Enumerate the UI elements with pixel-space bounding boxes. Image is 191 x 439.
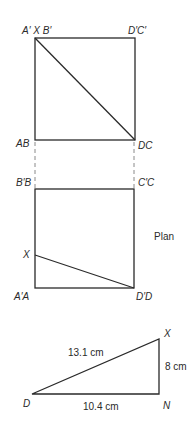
label-x: X	[22, 249, 30, 260]
label-c-prime-c: C′C	[138, 177, 155, 188]
vertex-d: D	[23, 398, 30, 409]
side-height-length: 8 cm	[165, 361, 187, 372]
label-b-prime-b: B′B	[16, 177, 32, 188]
label-d-prime-d: D′D	[136, 291, 152, 302]
label-a-prime-a: A′A	[13, 291, 30, 302]
right-triangle: D X N 13.1 cm 10.4 cm 8 cm	[23, 328, 187, 412]
elevation-view: A′ X B′ D′C′ AB DC	[15, 25, 153, 151]
plan-line-x-to-d	[35, 255, 134, 288]
label-dc: DC	[138, 140, 153, 151]
side-hypotenuse-length: 13.1 cm	[68, 347, 104, 358]
label-a-x-b-prime: A′ X B′	[21, 25, 52, 36]
elevation-diagonal	[35, 38, 135, 140]
label-ab: AB	[15, 138, 30, 149]
vertex-x: X	[163, 328, 171, 339]
projection-diagram: A′ X B′ D′C′ AB DC B′B C′C X A′A D′D Pla…	[0, 0, 191, 439]
plan-view: B′B C′C X A′A D′D Plan	[13, 177, 174, 302]
plan-title: Plan	[154, 231, 174, 242]
plan-square	[35, 189, 134, 288]
side-base-length: 10.4 cm	[83, 401, 119, 412]
label-d-c-prime: D′C′	[128, 25, 147, 36]
vertex-n: N	[163, 400, 171, 411]
